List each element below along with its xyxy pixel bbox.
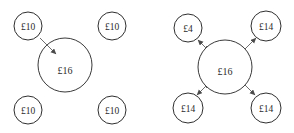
- node-label: £14: [259, 104, 274, 114]
- node-left-center: £16: [38, 38, 92, 92]
- center-label: £16: [58, 65, 73, 76]
- node-right-top-left: £4: [174, 14, 202, 42]
- node-label: £10: [105, 106, 120, 116]
- node-label: £10: [21, 22, 36, 32]
- node-left-bottom-right: £10: [98, 96, 126, 124]
- right-diagram: £16 £4 £14 £14 £14: [173, 11, 281, 123]
- money-flow-figure: £10 £10 £10 £10 £16: [0, 0, 294, 133]
- node-label: £4: [183, 24, 193, 34]
- diagram-canvas: £10 £10 £10 £10 £16: [0, 0, 294, 133]
- node-left-top-right: £10: [98, 12, 126, 40]
- node-label: £10: [21, 106, 36, 116]
- node-right-center: £16: [198, 40, 252, 94]
- node-label: £14: [181, 104, 196, 114]
- node-label: £10: [105, 22, 120, 32]
- node-label: £14: [259, 22, 274, 32]
- center-label: £16: [218, 66, 233, 77]
- node-right-top-right: £14: [251, 11, 281, 41]
- node-right-bottom-right: £14: [251, 93, 281, 123]
- node-left-bottom-left: £10: [14, 96, 42, 124]
- node-right-bottom-left: £14: [173, 93, 203, 123]
- node-left-top-left: £10: [14, 12, 42, 40]
- left-diagram: £10 £10 £10 £10 £16: [14, 12, 126, 124]
